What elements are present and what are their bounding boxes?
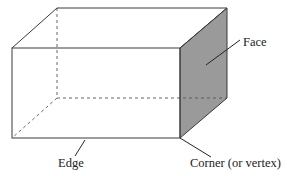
prism-diagram: Face Edge Corner (or vertex)	[0, 0, 287, 176]
edge-leader	[75, 140, 85, 156]
face-label: Face	[243, 35, 267, 49]
corner-label: Corner (or vertex)	[190, 156, 281, 170]
edge-label: Edge	[58, 156, 84, 170]
corner-leader	[180, 138, 211, 157]
